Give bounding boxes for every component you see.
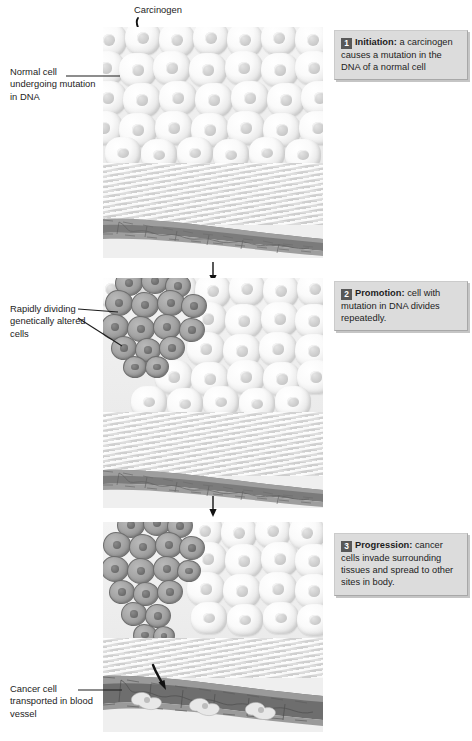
step-term-1: Initiation:: [355, 37, 397, 47]
step-term-2: Promotion:: [355, 288, 405, 298]
step-badge-3: 3: [341, 541, 352, 552]
carcinogen-label: Carcinogen: [103, 4, 213, 16]
epithelium-layer-1: [103, 27, 323, 165]
caption-promotion: 2Promotion: cell with mutation in DNA di…: [334, 281, 468, 331]
down-arrow-icon-2: [205, 496, 221, 518]
panel-initiation: [103, 27, 323, 258]
panel-progression: [103, 522, 323, 732]
figure-canvas: Carcinogen: [0, 0, 472, 741]
blood-vessel-layer-1: [103, 209, 323, 258]
normal-cell-leader-line: [66, 72, 122, 80]
caption-initiation: 1Initiation: a carcinogen causes a mutat…: [334, 30, 468, 80]
cancer-cell-leader-line: [78, 686, 124, 694]
invasion-arrow-icon: [150, 665, 176, 697]
step-badge-1: 1: [341, 38, 352, 49]
panel-promotion: [103, 278, 323, 508]
step-badge-2: 2: [341, 289, 352, 300]
rapidly-dividing-cells-leader-line: [78, 306, 134, 348]
step-term-3: Progression:: [355, 540, 412, 550]
caption-progression: 3Progression: cancer cells invade surrou…: [334, 533, 468, 596]
blood-vessel-layer-3: [103, 662, 323, 732]
